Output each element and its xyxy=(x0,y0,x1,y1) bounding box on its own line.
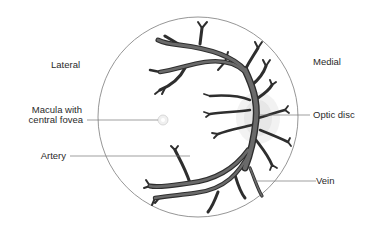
macula-label-line2: central fovea xyxy=(29,114,83,125)
optic-disc-label: Optic disc xyxy=(313,109,355,120)
macula-icon xyxy=(158,115,168,125)
artery-label: Artery xyxy=(41,150,66,161)
medial-label: Medial xyxy=(313,56,341,67)
lateral-label: Lateral xyxy=(51,59,80,70)
fundus-diagram: Lateral Medial Macula with central fovea… xyxy=(0,0,375,233)
vein-label: Vein xyxy=(316,175,335,186)
